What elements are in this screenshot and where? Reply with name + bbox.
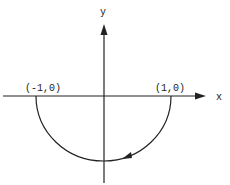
point-label-neg1-0: (-1,0) [25, 83, 61, 94]
x-axis-label: x [216, 92, 222, 103]
point-label-1-0: (1,0) [155, 83, 185, 94]
y-axis-label: y [100, 7, 106, 18]
y-axis-arrowhead-icon [101, 24, 108, 35]
coordinate-diagram: x y (-1,0) (1,0) [0, 0, 230, 185]
x-axis-arrowhead-icon [195, 93, 206, 100]
direction-arrowhead-icon [122, 152, 132, 159]
